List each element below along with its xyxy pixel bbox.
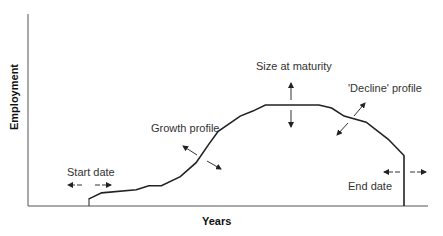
growth-arrow-up xyxy=(183,146,197,155)
lifecycle-diagram: Employment Years Start date Growth profi… xyxy=(0,0,443,236)
start-date-label: Start date xyxy=(67,166,115,178)
x-axis-label: Years xyxy=(202,215,231,227)
size-at-maturity-label: Size at maturity xyxy=(256,60,332,72)
decline-profile-label: 'Decline' profile xyxy=(348,82,422,94)
growth-arrow-down xyxy=(207,161,221,169)
decline-arrow-down xyxy=(337,123,348,135)
decline-arrow-up xyxy=(354,103,365,116)
end-date-label: End date xyxy=(348,180,392,192)
growth-profile-label: Growth profile xyxy=(151,122,219,134)
y-axis-label: Employment xyxy=(8,64,20,130)
